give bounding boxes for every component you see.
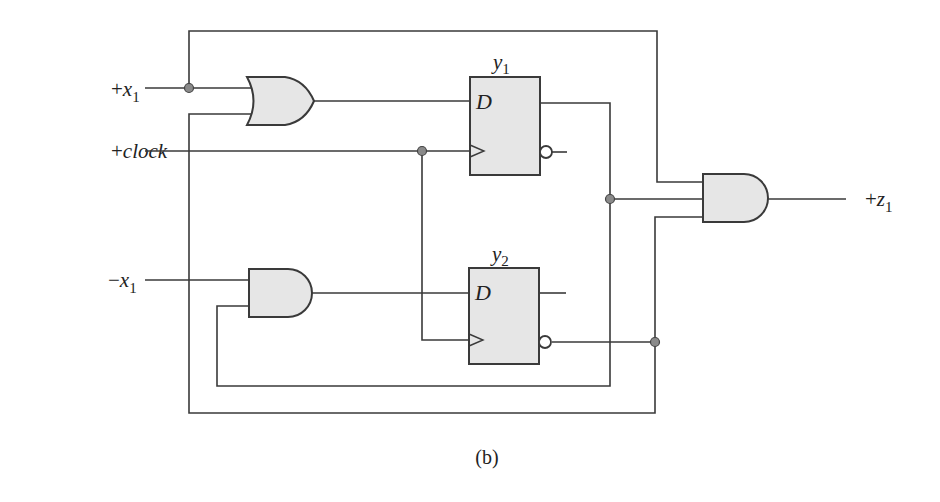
junction-dot <box>651 338 660 347</box>
svg-text:−x1: −x1 <box>108 268 137 296</box>
d-input-label: D <box>474 280 491 305</box>
figure-caption: (b) <box>475 446 498 469</box>
or-gate <box>247 77 314 125</box>
wire-clock-to-y2 <box>422 151 469 340</box>
flip-flop-label: y1 <box>491 50 510 77</box>
input-label-minus-x1: −x1 <box>108 268 137 296</box>
circuit-diagram: +x1 +clock −x1 +z1 <box>0 0 940 502</box>
and-gate-output <box>703 174 768 222</box>
inverted-output-bubble <box>540 146 552 158</box>
flip-flop-y2: D y2 <box>469 242 551 364</box>
junction-dot <box>606 195 615 204</box>
flip-flop-label: y2 <box>490 242 509 269</box>
junction-dot <box>185 84 194 93</box>
inverted-output-bubble <box>539 336 551 348</box>
junction-dot <box>418 147 427 156</box>
input-label-plus-x1: +x1 <box>111 77 140 105</box>
svg-text:+x1: +x1 <box>111 77 140 105</box>
output-label-z1: +z1 <box>865 187 893 215</box>
d-input-label: D <box>475 89 492 114</box>
svg-text:+z1: +z1 <box>865 187 893 215</box>
and-gate-lower <box>249 269 312 317</box>
wire-y2n-to-or <box>189 114 705 413</box>
flip-flop-y1: D y1 <box>470 50 552 175</box>
